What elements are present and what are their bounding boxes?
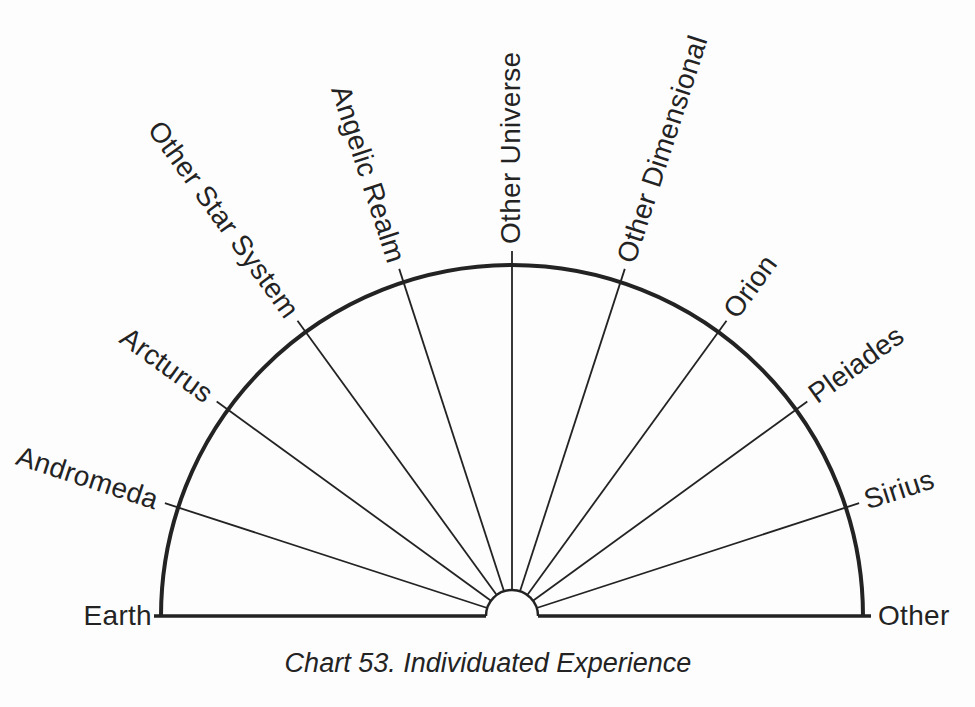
sector-label-earth: Earth [84,601,152,631]
radial-line-pleiades [533,402,807,601]
radial-line-angelic-realm [399,269,504,591]
sector-label-other-universe: Other Universe [496,52,526,245]
radial-line-andromeda [165,503,487,608]
dial-hub [486,590,538,616]
radial-line-orion [527,321,726,595]
dowsing-chart-figure: Earth Andromeda Arcturus Other Star Syst… [0,0,975,707]
radial-line-other-dimensional [520,269,625,591]
figure-caption: Chart 53. Individuated Experience [285,647,692,679]
sector-label-other: Other [878,601,950,631]
radial-line-other-star-system [298,321,497,595]
radial-line-arcturus [217,402,491,601]
radial-line-sirius [537,503,859,608]
